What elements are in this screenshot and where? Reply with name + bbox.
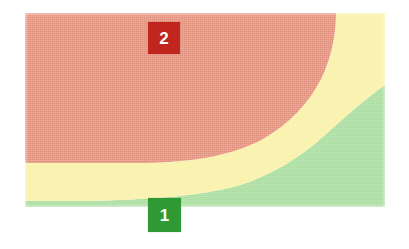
zone-diagram: 2 1 bbox=[0, 0, 409, 249]
marker-high-badge: 2 bbox=[148, 22, 180, 54]
marker-low-badge: 1 bbox=[148, 198, 181, 232]
zone-panel bbox=[25, 13, 385, 207]
zone-bands-svg bbox=[25, 13, 385, 207]
